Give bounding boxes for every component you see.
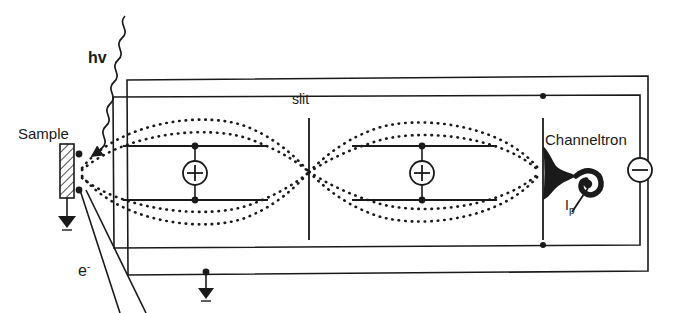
current-subscript: p xyxy=(569,205,575,216)
lens-2 xyxy=(352,143,497,204)
slit-label: slit xyxy=(292,92,309,106)
lens-1 xyxy=(123,143,268,204)
photon-beam-wave xyxy=(92,16,125,156)
bias-negative-terminal xyxy=(628,158,652,182)
electron-symbol: e xyxy=(78,262,87,279)
electron-label: e- xyxy=(78,262,90,279)
photon-energy-label: hv xyxy=(88,50,107,66)
diagram-canvas xyxy=(0,0,675,313)
electron-trajectories xyxy=(82,120,538,225)
channeltron-label: Channeltron xyxy=(545,132,627,147)
detector-current-label: Ip xyxy=(565,198,574,216)
sample-label: Sample xyxy=(18,126,69,141)
emission-points xyxy=(76,151,83,194)
photoemission-analyzer-diagram: Sample hv slit Channeltron Ip e- xyxy=(0,0,675,313)
electron-charge-superscript: - xyxy=(87,261,90,272)
housing-ground-symbol xyxy=(198,269,214,301)
sample-plate xyxy=(60,144,74,198)
sample-ground-symbol xyxy=(58,198,76,230)
